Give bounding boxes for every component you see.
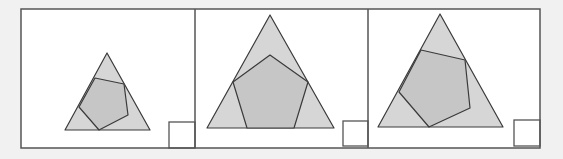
figure-canvas bbox=[0, 0, 563, 159]
corner-square bbox=[169, 122, 195, 148]
corner-square bbox=[343, 121, 368, 146]
corner-square bbox=[514, 120, 540, 146]
